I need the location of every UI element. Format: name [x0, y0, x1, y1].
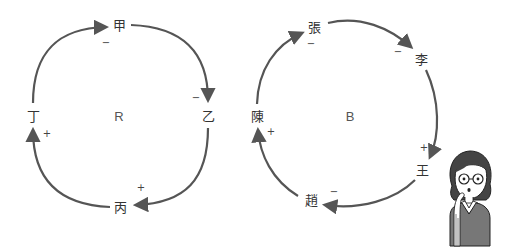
- arrow-wang-to-zhao: [325, 180, 415, 206]
- arrow-yi-to-bing: [136, 128, 208, 205]
- sign-li: −: [394, 47, 402, 57]
- node-jia: 甲: [113, 19, 126, 32]
- loop-r-label: R: [114, 109, 123, 124]
- sign-ding: +: [43, 129, 51, 139]
- node-chen: 陳: [251, 110, 264, 123]
- node-wang: 王: [416, 164, 429, 177]
- node-zhang: 張: [308, 21, 321, 34]
- arrow-zhao-to-chen: [258, 130, 298, 196]
- node-yi: 乙: [202, 110, 215, 123]
- sign-wang: +: [420, 143, 428, 153]
- sign-zhang: −: [307, 39, 315, 49]
- node-ding: 丁: [27, 110, 40, 123]
- sign-yi: −: [192, 93, 200, 103]
- sign-chen: +: [267, 127, 275, 137]
- thinking-woman-illustration: [440, 148, 500, 248]
- causal-loop-diagram: [0, 0, 506, 252]
- sign-zhao: −: [330, 187, 338, 197]
- node-zhao: 趙: [305, 194, 318, 207]
- arrow-chen-to-zhang: [257, 33, 302, 104]
- node-li: 李: [415, 53, 428, 66]
- arrow-bing-to-ding: [33, 130, 110, 207]
- arrow-jia-to-yi: [131, 25, 208, 100]
- arrow-ding-to-jia: [33, 27, 106, 103]
- loop-b-label: B: [346, 109, 355, 124]
- sign-jia: −: [102, 38, 110, 48]
- arrow-zhang-to-li: [328, 21, 411, 47]
- node-bing: 丙: [114, 201, 127, 214]
- sign-bing: +: [137, 183, 145, 193]
